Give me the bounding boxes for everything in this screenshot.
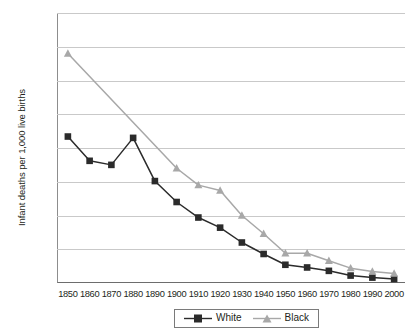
plot-area: 050100150200250300350400 bbox=[57, 13, 405, 283]
infant-mortality-line-chart: Infant deaths per 1,000 live births 0501… bbox=[0, 0, 414, 335]
data-point-marker bbox=[347, 272, 354, 279]
legend-swatch-white-icon bbox=[184, 313, 212, 324]
y-axis-title: Infant deaths per 1,000 live births bbox=[16, 53, 27, 263]
series-line bbox=[68, 54, 394, 274]
legend-label-white: White bbox=[216, 312, 242, 324]
data-point-marker bbox=[130, 135, 137, 142]
data-point-marker bbox=[65, 133, 72, 140]
legend-item-black: Black bbox=[253, 312, 309, 324]
data-point-marker bbox=[86, 158, 93, 165]
data-point-marker bbox=[64, 49, 72, 56]
data-point-marker bbox=[282, 261, 289, 268]
data-point-marker bbox=[369, 274, 376, 281]
data-point-marker bbox=[326, 268, 333, 275]
data-point-marker bbox=[195, 214, 202, 221]
series-line bbox=[68, 137, 394, 279]
data-point-marker bbox=[173, 199, 180, 206]
data-point-marker bbox=[304, 264, 311, 271]
chart-legend: White Black bbox=[174, 309, 319, 328]
legend-item-white: White bbox=[184, 312, 242, 324]
legend-swatch-black-icon bbox=[253, 313, 281, 324]
data-point-marker bbox=[108, 162, 115, 169]
data-point-marker bbox=[260, 251, 267, 258]
series-white bbox=[65, 133, 398, 282]
data-point-marker bbox=[239, 239, 246, 246]
legend-label-black: Black bbox=[285, 312, 309, 324]
x-tick-label: 2000 bbox=[377, 288, 411, 300]
x-axis-tick-labels: 1850186018701880189019001910192019301940… bbox=[57, 288, 405, 302]
series-layer bbox=[57, 13, 405, 283]
data-point-marker bbox=[152, 178, 159, 185]
data-point-marker bbox=[217, 224, 224, 231]
